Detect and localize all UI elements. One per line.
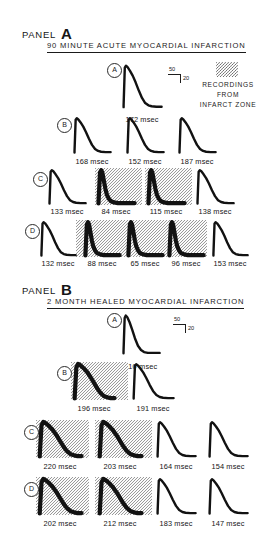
panel-b-row-d-trace-3-duration-label: 183 msec: [152, 519, 200, 528]
panel-b-row-d-trace-3: [156, 477, 196, 515]
infarct-zone-legend-line-2: FROM: [194, 91, 262, 98]
panel-b-row-d-trace-3-path: [158, 479, 196, 513]
panel-a-scale-bar: 5020: [168, 66, 196, 86]
panel-b-row-d-trace-1-path: [40, 479, 82, 514]
panel-b-row-d-trace-2-duration-label: 212 msec: [96, 519, 144, 528]
panel-a-scale-bar-horizontal-value: 50: [169, 66, 175, 72]
panel-b-row-d-trace-2-path: [100, 479, 142, 514]
panel-b-scale-bar-vertical-line: [185, 324, 186, 333]
panel-b-row-d-trace-4-path: [210, 479, 248, 513]
infarct-zone-legend-line-3: INFARCT ZONE: [194, 101, 262, 108]
figure-canvas: PANELA90 MINUTE ACUTE MYOCARDIAL INFARCT…: [0, 0, 265, 544]
panel-b-scale-bar-horizontal-value: 50: [174, 316, 180, 322]
panel-b-row-d-trace-4-duration-label: 147 msec: [204, 519, 252, 528]
panel-b-row-d-trace-1-duration-label: 202 msec: [36, 519, 84, 528]
infarct-zone-hatch-swatch: [216, 62, 238, 77]
panel-a-scale-bar-vertical-value: 20: [183, 75, 189, 81]
infarct-zone-legend-line-1: RECORDINGS: [194, 81, 262, 88]
panel-b-row-d-trace-2: [98, 477, 142, 515]
panel-a-scale-bar-vertical-line: [180, 74, 181, 83]
panel-b-row-d-trace-4: [208, 477, 248, 515]
panel-b-scale-bar-vertical-value: 20: [188, 325, 194, 331]
panel-b-row-d-trace-1: [38, 477, 82, 515]
panel-b-row-tag-d: D: [24, 482, 39, 497]
panel-b-scale-bar: 5020: [173, 316, 201, 336]
